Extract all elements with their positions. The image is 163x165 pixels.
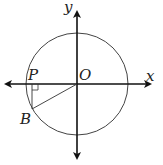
segment-ob [32,84,77,109]
unit-circle-diagram: y x O P B [0,0,163,165]
x-axis-label: x [146,67,155,85]
point-b-label: B [19,110,31,128]
origin-label: O [79,66,91,84]
right-angle-marker [32,84,38,90]
y-axis-label: y [63,0,73,16]
point-p-label: P [27,66,39,84]
